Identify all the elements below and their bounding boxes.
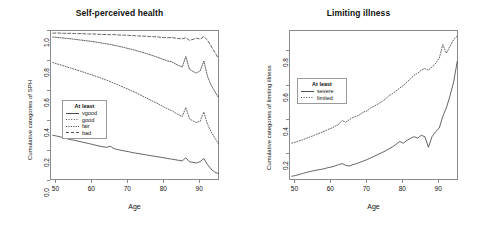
y-axis-label-right: Cumulative categories of limiting illnes… — [266, 65, 272, 170]
y-tick-mark — [286, 85, 289, 86]
x-tick-label: 80 — [153, 185, 173, 192]
x-tick-mark — [330, 180, 331, 183]
x-tick-mark — [199, 180, 200, 183]
figure-canvas: Self-perceived health 50607080900.00.20.… — [0, 0, 478, 232]
y-tick-mark — [47, 150, 50, 151]
x-tick-mark — [55, 180, 56, 183]
y-tick-label: 0.2 — [282, 161, 289, 170]
legend-key-vgood — [66, 113, 79, 114]
legend-item-bad[interactable]: bad — [66, 130, 103, 136]
chart-title-right: Limiting illness — [239, 8, 478, 18]
legend-key-fair — [66, 126, 79, 127]
y-tick-mark — [47, 180, 50, 181]
x-tick-label: 90 — [189, 185, 209, 192]
legend-item-limited[interactable]: limited — [301, 95, 343, 101]
x-tick-label: 80 — [392, 185, 412, 192]
legend-key-good — [66, 119, 79, 120]
legend-item-fair[interactable]: fair — [66, 123, 103, 129]
y-tick-label: 0.8 — [282, 58, 289, 67]
x-axis-label-left: Age — [50, 203, 219, 210]
y-tick-label: 1.0 — [43, 38, 50, 47]
y-tick-label: 0.6 — [43, 98, 50, 107]
legend-item-vgood[interactable]: vgood — [66, 110, 103, 116]
chart-title-left: Self-perceived health — [0, 8, 239, 18]
series-line-bad — [53, 33, 218, 58]
x-axis-label-right: Age — [289, 203, 458, 210]
x-tick-mark — [366, 180, 367, 183]
x-tick-mark — [163, 180, 164, 183]
y-tick-mark — [47, 90, 50, 91]
x-tick-label: 60 — [81, 185, 101, 192]
legend-item-good[interactable]: good — [66, 117, 103, 123]
x-tick-mark — [294, 180, 295, 183]
plot-area-right — [289, 30, 458, 180]
y-tick-label: 0.2 — [43, 158, 50, 167]
x-tick-label: 70 — [356, 185, 376, 192]
chart-panel-limiting-illness: Limiting illness 50607080900.20.40.60.8 … — [239, 0, 478, 232]
legend-label: bad — [82, 130, 91, 136]
y-tick-label: 0.8 — [43, 68, 50, 77]
x-tick-label: 90 — [428, 185, 448, 192]
x-tick-mark — [438, 180, 439, 183]
y-tick-mark — [286, 119, 289, 120]
legend-label: good — [82, 117, 94, 123]
y-tick-mark — [47, 120, 50, 121]
y-tick-label: 0.4 — [282, 127, 289, 136]
x-tick-label: 50 — [284, 185, 304, 192]
x-tick-mark — [91, 180, 92, 183]
legend-right[interactable]: At leastseverelimited — [297, 78, 347, 104]
x-tick-mark — [127, 180, 128, 183]
x-tick-mark — [402, 180, 403, 183]
legend-key-severe — [301, 91, 314, 92]
legend-key-bad — [66, 132, 79, 133]
series-lines-right — [290, 31, 459, 181]
legend-key-limited — [301, 97, 314, 98]
x-tick-label: 70 — [117, 185, 137, 192]
legend-label: limited — [317, 95, 333, 101]
legend-label: vgood — [82, 110, 97, 116]
y-tick-mark — [47, 30, 50, 31]
legend-left[interactable]: At leastvgoodgoodfairbad — [62, 100, 107, 139]
y-tick-mark — [286, 153, 289, 154]
y-tick-label: 0.4 — [43, 128, 50, 137]
series-line-vgood — [53, 135, 218, 173]
legend-item-severe[interactable]: severe — [301, 88, 343, 94]
y-tick-mark — [286, 50, 289, 51]
legend-title: At least — [301, 81, 343, 87]
legend-label: fair — [82, 123, 90, 129]
x-tick-label: 60 — [320, 185, 340, 192]
y-axis-label-left: Cumulative categories of SPH — [27, 80, 33, 160]
y-tick-mark — [47, 60, 50, 61]
y-tick-label: 0.0 — [43, 188, 50, 197]
legend-label: severe — [317, 88, 334, 94]
chart-panel-self-perceived-health: Self-perceived health 50607080900.00.20.… — [0, 0, 239, 232]
legend-title: At least — [66, 103, 103, 109]
y-tick-label: 0.6 — [282, 93, 289, 102]
series-line-fair — [53, 37, 218, 97]
